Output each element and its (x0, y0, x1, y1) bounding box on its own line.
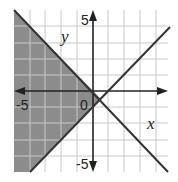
origin-label: 0 (80, 97, 88, 113)
inequality-graph: 5 -5 0 -5 y x (0, 0, 178, 182)
x-axis-arrow-right (157, 87, 168, 95)
tick-label-y-neg5: -5 (76, 156, 89, 172)
tick-label-x-neg5: -5 (16, 97, 29, 113)
tick-label-y-5: 5 (81, 12, 89, 28)
y-axis-label: y (59, 27, 69, 46)
y-axis-arrow-down (89, 161, 97, 172)
y-axis-arrow-up (89, 10, 97, 21)
x-axis-label: x (146, 114, 155, 133)
